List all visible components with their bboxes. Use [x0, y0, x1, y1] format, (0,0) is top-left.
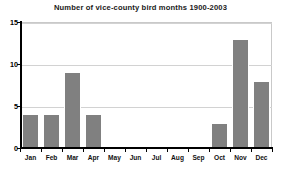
bar	[64, 72, 81, 148]
chart-title: Number of vice-county bird months 1900-2…	[0, 3, 281, 12]
x-axis-tick-mark	[209, 149, 210, 152]
x-axis-tick-label: Feb	[46, 154, 58, 161]
bar	[43, 114, 60, 148]
bar	[253, 81, 270, 148]
x-axis-tick-label: Apr	[88, 154, 99, 161]
x-axis-tick-label: Mar	[67, 154, 79, 161]
x-axis-tick-mark	[62, 149, 63, 152]
y-axis-tick-labels: 051015	[0, 0, 18, 179]
x-axis-tick-label: Sep	[192, 154, 204, 161]
x-axis-tick-label: Nov	[234, 154, 246, 161]
x-axis-tick-label: Jan	[25, 154, 36, 161]
y-axis-tick-label: 0	[3, 144, 18, 153]
x-axis-tick-mark	[167, 149, 168, 152]
x-axis-tick-mark	[188, 149, 189, 152]
bar	[85, 114, 102, 148]
x-axis-tick-mark	[104, 149, 105, 152]
x-axis-tick-mark	[41, 149, 42, 152]
bar	[22, 114, 39, 148]
x-axis-tick-mark	[272, 149, 273, 152]
x-axis-tick-label: Jun	[130, 154, 142, 161]
y-axis-tick-label: 10	[3, 60, 18, 69]
x-axis-tick-label: Aug	[171, 154, 184, 161]
x-axis-tick-label: Jul	[152, 154, 162, 161]
x-axis-tick-mark	[125, 149, 126, 152]
x-axis-tick-mark	[146, 149, 147, 152]
x-axis-tick-mark	[251, 149, 252, 152]
y-axis-tick-label: 5	[3, 102, 18, 111]
x-axis-tick-label: Oct	[214, 154, 225, 161]
x-axis-tick-mark	[230, 149, 231, 152]
bar	[232, 39, 249, 148]
x-axis-tick-mark	[83, 149, 84, 152]
y-axis-line	[20, 21, 22, 149]
bar	[211, 123, 228, 148]
bar-chart-figure: Number of vice-county bird months 1900-2…	[0, 0, 281, 179]
plot-area	[20, 22, 272, 148]
gridline	[20, 23, 272, 24]
x-axis-tick-label: May	[108, 154, 121, 161]
x-axis-tick-label: Dec	[255, 154, 267, 161]
x-axis-tick-mark	[20, 149, 21, 152]
y-axis-tick-label: 15	[3, 18, 18, 27]
